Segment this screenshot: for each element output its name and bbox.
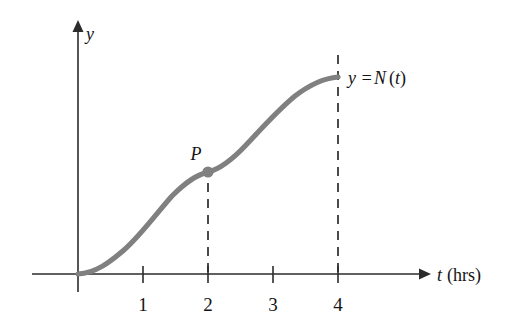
x-tick-label-3: 3 <box>268 294 278 315</box>
x-tick-label-1: 1 <box>138 294 148 315</box>
curve-equation-arg: (t) <box>389 68 406 89</box>
x-tick-label-4: 4 <box>333 294 343 315</box>
x-axis-label-unit: (hrs) <box>447 265 481 286</box>
inflection-point-label: P <box>190 144 202 164</box>
curve-equation-lhs: y = <box>346 68 373 88</box>
curve-equation-y: y = <box>346 68 373 88</box>
growth-curve-figure: 1 2 3 4 P y t (hrs) y = N (t) <box>0 0 512 327</box>
x-axis-arrowhead <box>419 269 431 280</box>
x-axis-label-symbol: t <box>437 265 443 285</box>
figure-canvas: 1 2 3 4 P y t (hrs) y = N (t) <box>0 0 512 327</box>
y-axis-label: y <box>84 24 94 44</box>
y-axis-arrowhead <box>73 20 84 32</box>
curve-equation-paren-close: ) <box>400 68 406 89</box>
inflection-point-marker <box>202 166 213 177</box>
x-tick-label-2: 2 <box>203 294 213 315</box>
curve-equation-fn: N <box>373 68 387 88</box>
